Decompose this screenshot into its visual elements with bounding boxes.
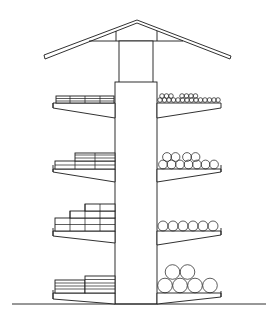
level-1-left-shelf	[53, 96, 115, 118]
level-4-right-shelf	[157, 265, 221, 304]
level-3-right-shelf	[157, 221, 221, 245]
upper-column	[119, 41, 153, 83]
level-1-right-shelf	[157, 94, 221, 118]
main-column	[115, 82, 157, 304]
storage-tower-diagram: Central-column storage tower with cantil…	[0, 0, 277, 332]
level-4-left-shelf	[53, 276, 115, 304]
level-2-right-shelf	[157, 153, 221, 182]
level-3-left-shelf	[53, 204, 115, 243]
level-2-left-shelf	[53, 153, 115, 182]
diagram-canvas	[0, 0, 277, 332]
